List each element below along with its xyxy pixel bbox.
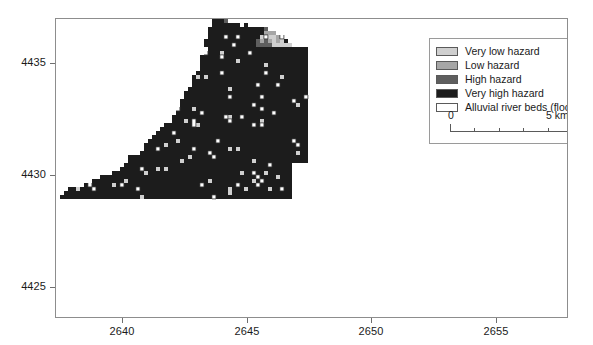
map-legend: Very low hazard Low hazard High hazard V…	[429, 38, 568, 144]
scale-bar-tick	[474, 128, 475, 132]
map-plot-frame: Very low hazard Low hazard High hazard V…	[55, 18, 568, 318]
x-tick-mark	[371, 318, 372, 323]
y-tick-label: 4430	[2, 168, 46, 180]
scale-bar-axis-line	[450, 131, 568, 132]
legend-item-high-hazard: High hazard	[436, 72, 568, 86]
x-tick-label: 2640	[97, 325, 147, 337]
x-tick-mark	[496, 318, 497, 323]
legend-swatch-very-low-hazard	[436, 47, 458, 56]
y-tick-label: 4425	[2, 280, 46, 292]
legend-label-very-high-hazard: Very high hazard	[465, 88, 544, 99]
y-tick-label: 4435	[2, 56, 46, 68]
legend-item-very-low-hazard: Very low hazard	[436, 44, 568, 58]
scale-bar-labels: 0 5 km	[436, 109, 568, 122]
hazard-map-figure: 443544304425 2640264526502655 Very low h…	[0, 0, 593, 345]
x-tick-mark	[122, 318, 123, 323]
scale-bar-tick	[499, 128, 500, 132]
scale-bar-max-label: 5 km	[546, 109, 568, 121]
x-tick-label: 2645	[222, 325, 272, 337]
legend-swatch-very-high-hazard	[436, 89, 458, 98]
scale-bar-end-tick	[450, 124, 451, 132]
legend-swatch-high-hazard	[436, 75, 458, 84]
legend-item-very-high-hazard: Very high hazard	[436, 86, 568, 100]
scale-bar-tick	[548, 128, 549, 132]
legend-label-high-hazard: High hazard	[465, 74, 522, 85]
x-tick-mark	[247, 318, 248, 323]
scale-bar-zero-label: 0	[448, 109, 454, 121]
legend-swatch-low-hazard	[436, 61, 458, 70]
x-tick-label: 2650	[346, 325, 396, 337]
scale-bar-tick	[523, 128, 524, 132]
scale-bar: 0 5 km	[436, 109, 568, 139]
legend-label-very-low-hazard: Very low hazard	[465, 46, 540, 57]
legend-item-low-hazard: Low hazard	[436, 58, 568, 72]
scale-bar-track	[450, 124, 568, 132]
legend-label-low-hazard: Low hazard	[465, 60, 519, 71]
x-tick-label: 2655	[471, 325, 521, 337]
